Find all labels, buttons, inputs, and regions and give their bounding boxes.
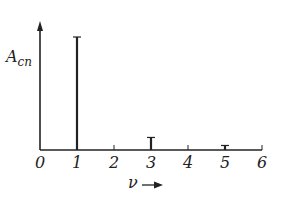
spectrum-chart: 0123456 Acn ν: [0, 0, 283, 199]
x-tick-label: 2: [108, 153, 119, 172]
x-tick-label: 5: [220, 153, 230, 172]
x-axis-label: ν: [128, 173, 138, 192]
x-tick-label: 0: [35, 153, 45, 172]
x-tick-label: 3: [146, 153, 156, 172]
x-tick-label: 4: [182, 153, 193, 172]
y-axis-arrow-icon: [37, 21, 43, 31]
x-ticks: 0123456: [35, 145, 267, 172]
axes: [37, 21, 262, 150]
spectral-lines: [73, 37, 229, 150]
x-tick-label: 6: [257, 153, 267, 172]
x-tick-label: 1: [72, 153, 82, 172]
y-axis-label: Acn: [4, 47, 32, 69]
x-axis-label-arrow: [142, 182, 163, 189]
